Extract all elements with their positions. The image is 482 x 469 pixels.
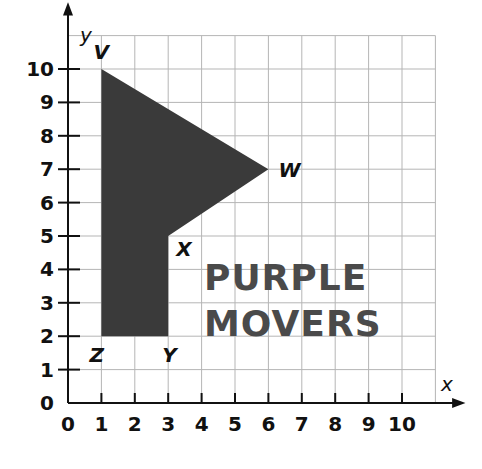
y-tick-label: 2 <box>40 324 54 348</box>
x-tick-label: 9 <box>362 412 376 436</box>
y-tick-label: 8 <box>40 124 54 148</box>
x-tick-label: 7 <box>295 412 309 436</box>
y-tick-label: 7 <box>40 157 54 181</box>
vertex-label-z: Z <box>88 343 104 367</box>
y-tick-label: 3 <box>40 291 54 315</box>
purple-movers-logo: PURPLE MOVERS <box>204 257 382 344</box>
y-tick-label: 6 <box>40 191 54 215</box>
y-tick-label: 1 <box>40 358 54 382</box>
y-tick-label: 9 <box>40 90 54 114</box>
x-tick-label: 10 <box>388 412 416 436</box>
vertex-label-x: X <box>174 237 193 261</box>
y-tick-label: 10 <box>26 57 54 81</box>
x-tick-label: 6 <box>261 412 275 436</box>
vertex-label-v: V <box>93 40 110 64</box>
vertex-label-y: Y <box>162 343 179 367</box>
x-tick-label: 0 <box>61 412 75 436</box>
axis-ticks: 012345678910012345678910 <box>26 57 416 436</box>
coordinate-plane: 012345678910012345678910 VWXYZ PURPLE MO… <box>0 0 482 469</box>
logo-line-1: PURPLE <box>204 257 367 298</box>
x-tick-label: 2 <box>128 412 142 436</box>
y-tick-label: 5 <box>40 224 54 248</box>
y-axis-label: y <box>79 23 93 47</box>
x-axis-label: x <box>440 372 453 396</box>
y-tick-label: 0 <box>40 391 54 415</box>
x-tick-label: 4 <box>195 412 209 436</box>
logo-line-2: MOVERS <box>204 303 382 344</box>
x-tick-label: 8 <box>328 412 342 436</box>
x-tick-label: 1 <box>94 412 108 436</box>
vertex-label-w: W <box>278 158 301 182</box>
x-tick-label: 3 <box>161 412 175 436</box>
y-tick-label: 4 <box>40 257 54 281</box>
x-tick-label: 5 <box>228 412 242 436</box>
